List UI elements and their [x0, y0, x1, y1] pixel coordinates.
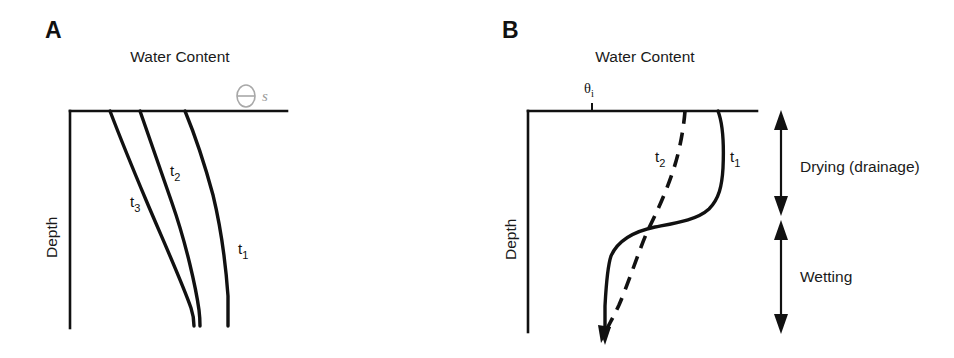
panel-a-curve-t2: [140, 111, 200, 326]
panel-b-drying-arrow-down: [774, 196, 788, 216]
panel-a-label-t3-sub: 3: [134, 202, 140, 214]
panel-a-label-t3: t3: [130, 193, 140, 214]
panel-a-theta-s-subscript: s: [262, 88, 268, 104]
panel-b-x-axis-title: Water Content: [595, 48, 695, 65]
panel-b-drying-label: Drying (drainage): [800, 158, 920, 175]
panel-b-y-axis-title: Depth: [502, 219, 519, 260]
panel-b-label-t1: t1: [730, 148, 740, 169]
panel-b-label-t2-sub: 2: [659, 157, 665, 169]
panel-b-theta-i-base: θ: [584, 80, 591, 96]
panel-b-letter: B: [502, 17, 519, 43]
panel-a-theta-s-annotation: s: [237, 85, 268, 107]
figure-svg: A Water Content s Depth t2 t3 t1 B Water…: [0, 0, 954, 358]
panel-b-theta-i-sub: i: [591, 88, 594, 99]
panel-b-wetting-bracket: Wetting: [774, 220, 852, 334]
panel-a-curve-t1: [185, 111, 228, 326]
panel-a-label-t2: t2: [170, 162, 180, 183]
figure-container: A Water Content s Depth t2 t3 t1 B Water…: [0, 0, 954, 358]
panel-b-curve-t2: [606, 111, 685, 331]
panel-b-drying-bracket: Drying (drainage): [774, 110, 920, 216]
panel-b-theta-i-annotation: θi: [584, 80, 594, 112]
panel-a-y-axis-title: Depth: [43, 217, 60, 258]
panel-b-label-t2: t2: [655, 148, 665, 169]
panel-a-label-t1: t1: [238, 240, 248, 261]
panel-b-label-t1-sub: 1: [734, 157, 740, 169]
panel-b-drying-arrow-up: [774, 110, 788, 130]
panel-a-label-t2-sub: 2: [174, 171, 180, 183]
panel-a-letter: A: [45, 17, 62, 43]
panel-a: A Water Content s Depth t2 t3 t1: [43, 17, 287, 328]
panel-b-wetting-arrow-up: [774, 220, 788, 240]
panel-a-label-t1-sub: 1: [242, 249, 248, 261]
panel-b: B Water Content θi Depth t2 t1 Drying (d…: [502, 17, 920, 345]
panel-b-wetting-label: Wetting: [800, 268, 852, 285]
panel-b-theta-i-label: θi: [584, 80, 594, 99]
panel-a-x-axis-title: Water Content: [130, 48, 230, 65]
panel-b-wetting-arrow-down: [774, 314, 788, 334]
